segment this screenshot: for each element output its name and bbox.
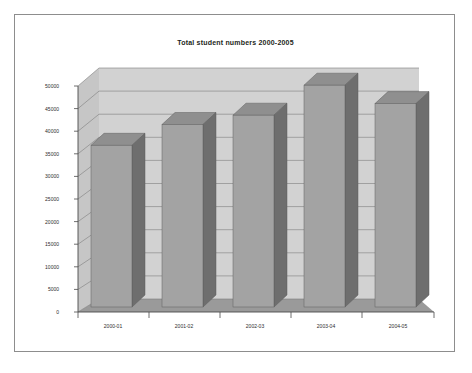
chart-frame: Total student numbers 2000-2005 [14, 14, 455, 352]
x-tick-label: 2002-03 [246, 323, 264, 329]
screenshot-canvas: Total student numbers 2000-2005 [0, 0, 472, 373]
x-tick-label: 2001-02 [175, 323, 193, 329]
x-tick-label: 2004-05 [389, 323, 407, 329]
chart-plot-area: 0 5000 10000 15000 20000 25000 30000 350… [15, 15, 456, 353]
x-axis-labels: 2000-01 2001-02 2002-03 2003-04 2004-05 [15, 15, 456, 353]
x-tick-label: 2000-01 [104, 323, 122, 329]
x-tick-label: 2003-04 [317, 323, 335, 329]
